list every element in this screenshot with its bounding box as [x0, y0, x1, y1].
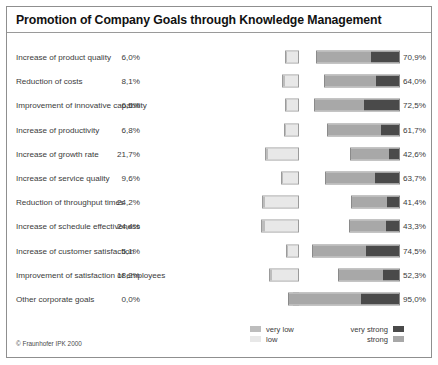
bar-segment-low — [283, 173, 298, 184]
bar-segment-strong — [328, 124, 381, 135]
bar-segment-strong — [317, 52, 371, 63]
bar-negative — [262, 196, 299, 209]
row-negative-value-label: 6,8% — [122, 125, 140, 134]
bar-segment-strong — [339, 269, 382, 280]
legend-item-low: low — [250, 335, 294, 343]
legend-item-very-strong: very strong — [350, 325, 404, 333]
row-negative-value-label: 24,2% — [117, 198, 140, 207]
bar-positive — [338, 268, 400, 281]
chart-row: Reduction of costs8,1%64,0% — [7, 69, 431, 93]
chart-plot-area: Increase of product quality6,0%70,9%Redu… — [7, 33, 431, 357]
chart-title-bar: Promotion of Company Goals through Knowl… — [7, 7, 431, 33]
bar-segment-strong — [315, 100, 363, 111]
row-negative-value-label: 24,4% — [117, 222, 140, 231]
bar-segment-low — [286, 124, 298, 135]
bar-positive — [288, 293, 400, 306]
row-category-label: Increase of productivity — [16, 125, 99, 134]
bar-positive — [312, 244, 400, 257]
legend-swatch-very-low-icon — [250, 326, 261, 332]
row-positive-value-label: 43,3% — [403, 222, 426, 231]
row-positive-value-label: 52,3% — [403, 270, 426, 279]
chart-row: Increase of schedule effectiveness24,4%4… — [7, 214, 431, 238]
row-negative-value-label: 8,1% — [122, 77, 140, 86]
chart-row: Increase of service quality9,6%63,7% — [7, 166, 431, 190]
row-negative-value-label: 5,1% — [122, 246, 140, 255]
bar-negative — [285, 51, 299, 64]
chart-frame: Promotion of Company Goals through Knowl… — [6, 6, 432, 358]
chart-row: Improvement of innovative capability6,5%… — [7, 93, 431, 117]
bar-positive — [351, 196, 400, 209]
legend-label-low: low — [266, 335, 277, 344]
row-negative-value-label: 18,2% — [117, 270, 140, 279]
legend-group-negative: very low low — [250, 325, 294, 343]
bar-negative — [265, 147, 299, 160]
bar-segment-strong — [326, 173, 375, 184]
bar-segment-strong — [352, 197, 387, 208]
bar-segment-low — [268, 148, 298, 159]
bar-segment-very-strong — [376, 76, 399, 87]
row-category-label: Improvement of satisfaction of employees — [16, 270, 165, 279]
row-positive-value-label: 61,7% — [403, 125, 426, 134]
legend-item-very-low: very low — [250, 325, 294, 333]
chart-row: Increase of product quality6,0%70,9% — [7, 45, 431, 69]
row-category-label: Increase of product quality — [16, 53, 111, 62]
bar-positive — [325, 172, 400, 185]
bar-segment-low — [265, 221, 298, 232]
bar-segment-very-strong — [375, 173, 399, 184]
row-negative-value-label: 9,6% — [122, 174, 140, 183]
legend-group-positive: very strong strong — [350, 325, 404, 343]
bar-segment-very-strong — [361, 294, 399, 305]
bar-positive — [350, 147, 400, 160]
bar-segment-low — [287, 52, 298, 63]
bar-positive — [324, 75, 400, 88]
bar-segment-low — [288, 245, 298, 256]
legend-label-very-strong: very strong — [350, 325, 388, 334]
row-negative-value-label: 0,0% — [122, 295, 140, 304]
row-category-label: Other corporate goals — [16, 295, 94, 304]
bar-segment-strong — [325, 76, 376, 87]
bar-segment-very-strong — [364, 100, 399, 111]
bar-positive — [316, 51, 400, 64]
bar-negative — [261, 220, 299, 233]
bar-segment-very-strong — [371, 52, 399, 63]
row-positive-value-label: 95,0% — [403, 295, 426, 304]
bar-segment-strong — [313, 245, 366, 256]
bar-positive — [314, 99, 400, 112]
legend-swatch-very-strong-icon — [393, 326, 404, 332]
row-negative-value-label: 21,7% — [117, 149, 140, 158]
legend-item-strong: strong — [367, 335, 404, 343]
chart-title: Promotion of Company Goals through Knowl… — [7, 13, 381, 27]
row-positive-value-label: 74,5% — [403, 246, 426, 255]
bar-segment-strong — [350, 221, 386, 232]
bar-segment-low — [285, 76, 298, 87]
legend-label-very-low: very low — [266, 325, 294, 334]
row-positive-value-label: 72,5% — [403, 101, 426, 110]
bar-segment-very-strong — [381, 124, 399, 135]
chart-row: Reduction of throughput times24,2%41,4% — [7, 190, 431, 214]
legend-label-strong: strong — [367, 335, 388, 344]
bar-negative — [282, 75, 299, 88]
chart-row: Increase of productivity6,8%61,7% — [7, 118, 431, 142]
chart-row: Improvement of satisfaction of employees… — [7, 263, 431, 287]
bar-segment-very-strong — [383, 269, 399, 280]
row-positive-value-label: 64,0% — [403, 77, 426, 86]
row-category-label: Increase of service quality — [16, 174, 110, 183]
bar-segment-low — [265, 197, 298, 208]
bar-positive — [349, 220, 400, 233]
bar-segment-low — [272, 269, 298, 280]
row-category-label: Reduction of throughput times — [16, 198, 124, 207]
row-positive-value-label: 70,9% — [403, 53, 426, 62]
bar-positive — [327, 123, 400, 136]
chart-row: Increase of growth rate21,7%42,6% — [7, 142, 431, 166]
bar-segment-very-strong — [389, 148, 399, 159]
row-category-label: Reduction of costs — [16, 77, 83, 86]
bar-negative — [281, 172, 299, 185]
bar-negative — [269, 268, 299, 281]
row-positive-value-label: 63,7% — [403, 174, 426, 183]
row-negative-value-label: 6,5% — [122, 101, 140, 110]
bar-segment-strong — [351, 148, 389, 159]
row-category-label: Increase of customer satisfaction — [16, 246, 134, 255]
legend-swatch-low-icon — [250, 336, 261, 342]
bar-segment-low — [287, 100, 298, 111]
bar-segment-very-strong — [387, 197, 399, 208]
